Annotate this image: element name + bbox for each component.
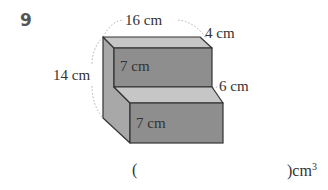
label-top-length: 16 cm bbox=[125, 12, 162, 29]
label-top-depth: 4 cm bbox=[205, 25, 235, 42]
label-upper-front-height: 7 cm bbox=[120, 58, 150, 75]
label-lower-front-height: 7 cm bbox=[136, 115, 166, 132]
dotted-arc-left bbox=[92, 37, 103, 65]
label-total-height: 14 cm bbox=[53, 67, 90, 84]
dotted-arc-left-lower bbox=[92, 86, 103, 118]
dotted-arc-top bbox=[103, 20, 124, 37]
answer-unit: )cm3 bbox=[287, 161, 317, 180]
step-top-face bbox=[114, 87, 223, 103]
label-step-depth: 6 cm bbox=[219, 78, 249, 95]
dotted-arc-top-right bbox=[178, 20, 205, 37]
unit-exponent: 3 bbox=[312, 161, 317, 172]
unit-text: cm bbox=[292, 162, 312, 179]
answer-blank[interactable] bbox=[142, 160, 282, 180]
answer-open-paren: ( bbox=[132, 161, 137, 179]
upper-top-face bbox=[103, 37, 212, 48]
